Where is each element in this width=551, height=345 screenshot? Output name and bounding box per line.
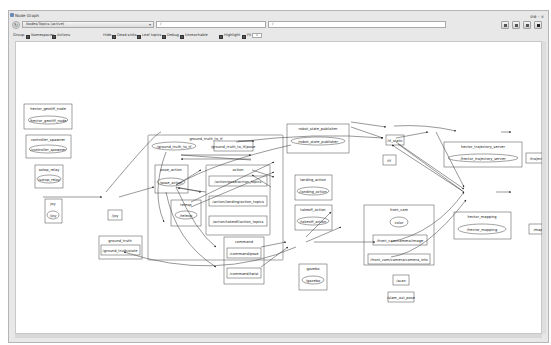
cluster-label: front_cam bbox=[390, 208, 409, 212]
ros-graph: hector_geotiff_node /hector_geotiff_node… bbox=[16, 42, 543, 335]
hide-label-text: Hide: bbox=[103, 31, 112, 40]
chevron-down-icon: ▾ bbox=[149, 22, 151, 27]
unreachable-label: Unreachable bbox=[185, 31, 208, 40]
node-label: /sotop_relay bbox=[38, 178, 61, 182]
cluster-label: teleop bbox=[180, 203, 192, 207]
fit-view-button[interactable] bbox=[501, 21, 509, 29]
cluster-label: joy bbox=[49, 202, 56, 206]
topic-filter-input[interactable]: / bbox=[268, 21, 446, 28]
cluster-label: hector_trajectory_server bbox=[461, 145, 506, 149]
dead-sinks-checkbox[interactable]: Dead sinks bbox=[112, 31, 137, 40]
unreachable-checkbox[interactable]: Unreachable bbox=[180, 31, 208, 40]
leaf-topics-checkbox[interactable]: Leaf topics bbox=[137, 31, 162, 40]
graph-options-bar: Group: Namespaces Actions Hide: Dead sin… bbox=[9, 31, 548, 40]
cluster-label: action bbox=[232, 168, 243, 172]
topic-label: /action/takeoff/action_topics bbox=[213, 220, 264, 224]
node-label: color bbox=[395, 221, 404, 225]
leaf-topics-label: Leaf topics bbox=[142, 31, 162, 40]
save-svg-button[interactable] bbox=[523, 21, 531, 29]
checkbox-icon bbox=[26, 35, 30, 39]
refresh-button[interactable]: ↻ bbox=[12, 21, 20, 29]
checkbox-icon bbox=[52, 35, 56, 39]
actions-checkbox[interactable]: Actions bbox=[52, 31, 70, 40]
node-label: /takeoff_action bbox=[300, 220, 327, 224]
graph-canvas[interactable]: hector_geotiff_node /hector_geotiff_node… bbox=[15, 41, 542, 334]
cluster-label: ground_truth_to_tf bbox=[189, 137, 223, 141]
window-title: Node Graph bbox=[15, 13, 39, 18]
save-image-icon bbox=[537, 24, 540, 27]
namespaces-checkbox[interactable]: Namespaces bbox=[26, 31, 54, 40]
save-dot-icon bbox=[515, 24, 518, 27]
node-label: /teleop bbox=[180, 214, 193, 218]
cluster-label: pose_action bbox=[160, 168, 181, 172]
view-mode-value: Nodes/Topics (active) bbox=[26, 22, 64, 26]
topic-label: /joy bbox=[112, 214, 119, 218]
checkbox-icon bbox=[137, 35, 141, 39]
fit-icon bbox=[504, 24, 507, 27]
highlight-label: Highlight bbox=[224, 31, 240, 40]
save-dot-button[interactable] bbox=[512, 21, 520, 29]
checkbox-icon bbox=[112, 35, 116, 39]
node-label: /hector_trajectory_server bbox=[460, 157, 506, 161]
node-label: /landing_action bbox=[299, 190, 326, 194]
cluster-label: landing_action bbox=[300, 178, 326, 182]
depth-spinbox[interactable]: 1 bbox=[252, 31, 262, 38]
vertical-scrollbar[interactable] bbox=[542, 41, 546, 334]
graph-tool-buttons bbox=[501, 21, 542, 29]
group-label: Group: bbox=[13, 31, 25, 40]
depth-value: 1 bbox=[252, 33, 262, 38]
topic-label: /command/pose bbox=[230, 252, 260, 256]
cluster-label: robot_state_publisher bbox=[299, 127, 338, 131]
hide-label: Hide: bbox=[103, 31, 112, 40]
namespace-filter-value: / bbox=[160, 22, 161, 26]
debug-checkbox[interactable]: Debug bbox=[162, 31, 179, 40]
topic-label: /slam_out_pose bbox=[387, 296, 416, 300]
horizontal-scrollbar[interactable] bbox=[15, 334, 542, 338]
checkbox-icon bbox=[242, 35, 246, 39]
cluster-label: ground_truth bbox=[108, 239, 131, 243]
topic-label: /command/twist bbox=[230, 272, 260, 276]
topic-label: /tf_static bbox=[387, 139, 403, 143]
fit-label: Fit bbox=[247, 31, 251, 40]
debug-label: Debug bbox=[167, 31, 179, 40]
topic-label: /action/landing/action_topics bbox=[212, 200, 264, 204]
cluster-label: hector_mapping bbox=[467, 215, 496, 219]
cluster-label: sotop_relay bbox=[39, 168, 61, 172]
actions-label: Actions bbox=[57, 31, 70, 40]
checkbox-icon bbox=[219, 35, 223, 39]
node-label: /controller_spawner bbox=[30, 148, 66, 152]
topic-label: /front_cam/camera/camera_info bbox=[370, 258, 427, 262]
save-svg-icon bbox=[526, 24, 529, 27]
title-bar: Node Graph ⊘⊗ - × bbox=[9, 11, 548, 20]
topic-filter-value: / bbox=[272, 22, 273, 26]
node-label: /hector_geotiff_node bbox=[30, 119, 68, 123]
fit-checkbox[interactable]: Fit bbox=[242, 31, 251, 40]
node-label: /pose_action bbox=[160, 181, 183, 185]
checkbox-icon bbox=[162, 35, 166, 39]
app-icon bbox=[10, 13, 14, 17]
namespaces-label: Namespaces bbox=[31, 31, 54, 40]
node-label: /gazebo bbox=[306, 279, 320, 283]
view-mode-select[interactable]: Nodes/Topics (active) ▾ bbox=[22, 21, 154, 28]
topic-label: /ground_truth/state bbox=[103, 249, 139, 253]
namespace-filter-input[interactable]: / bbox=[156, 21, 266, 28]
node-label: /joy bbox=[50, 214, 57, 218]
topic-label: /ground_truth_to_tf/pose bbox=[211, 145, 256, 149]
topic-label: /action/pose/action_topics bbox=[215, 180, 262, 184]
node-label: /ground_truth_to_tf bbox=[157, 145, 192, 149]
cluster-label: gazebo bbox=[306, 267, 319, 271]
cluster-label: command bbox=[235, 240, 253, 244]
cluster-label: hector_geotiff_node bbox=[30, 107, 66, 111]
highlight-checkbox[interactable]: Highlight bbox=[219, 31, 240, 40]
group-label-text: Group: bbox=[13, 31, 25, 40]
topic-label: /tf bbox=[387, 159, 392, 163]
cluster-label: takeoff_action bbox=[300, 208, 325, 212]
checkbox-icon bbox=[180, 35, 184, 39]
save-image-button[interactable] bbox=[534, 21, 542, 29]
topic-label: /scan bbox=[396, 279, 406, 283]
toolbar-filters: ↻ Nodes/Topics (active) ▾ / / bbox=[9, 20, 548, 30]
refresh-icon: ↻ bbox=[14, 22, 18, 28]
node-label: /hector_mapping bbox=[467, 228, 497, 232]
node-label: /robot_state_publisher bbox=[298, 140, 339, 144]
topic-label: /front_cam/camera/image bbox=[377, 239, 424, 243]
